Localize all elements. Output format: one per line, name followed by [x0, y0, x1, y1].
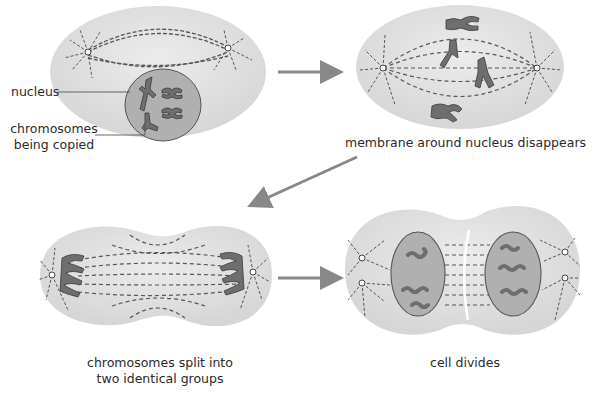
stage-4-cell — [345, 206, 580, 335]
chromosomes-label-line1: chromosomes — [10, 121, 98, 137]
cell-division-diagram — [0, 0, 595, 398]
stage-4-caption: cell divides — [400, 355, 530, 371]
stage-2-cell — [356, 5, 564, 129]
nucleus-label: nucleus — [11, 84, 59, 100]
stage-3-caption-line2: two identical groups — [60, 371, 260, 387]
arrow-down-left — [258, 157, 357, 202]
chromosomes-label-line2: being copied — [10, 137, 98, 153]
chromosomes-label: chromosomes being copied — [10, 121, 98, 153]
stage-3-caption: chromosomes split into two identical gro… — [60, 355, 260, 387]
stage-2-caption: membrane around nucleus disappears — [345, 135, 575, 151]
nucleus-right — [485, 232, 541, 316]
stage-3-caption-line1: chromosomes split into — [60, 355, 260, 371]
nucleus — [125, 69, 201, 141]
stage-3-cell — [38, 226, 272, 326]
